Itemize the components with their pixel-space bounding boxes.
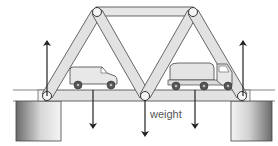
van [70, 67, 117, 89]
left-pillar [16, 101, 61, 141]
truss-bridge-diagram [0, 0, 278, 146]
joint-top-right [189, 8, 198, 17]
top-chord [96, 7, 193, 16]
weight-label: weight [150, 109, 182, 120]
truck [168, 63, 232, 90]
joint-bottom-right [238, 92, 247, 101]
joint-bottom-center [141, 92, 150, 101]
joint-top-left [93, 8, 102, 17]
right-pillar [231, 101, 272, 141]
